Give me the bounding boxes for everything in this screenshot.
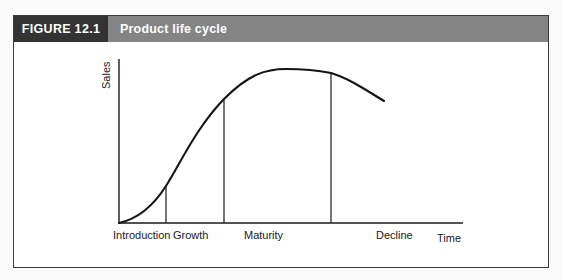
figure-container: FIGURE 12.1 Product life cycle Sales Tim… (13, 15, 549, 268)
figure-title-block: Product life cycle (108, 16, 548, 42)
y-axis-label: Sales (100, 61, 112, 89)
product-life-cycle-curve (119, 69, 384, 223)
figure-header: FIGURE 12.1 Product life cycle (14, 16, 548, 42)
figure-title-label: Product life cycle (120, 22, 227, 36)
stage-label-growth: Growth (173, 229, 208, 241)
stage-label-maturity: Maturity (244, 229, 284, 241)
stage-label-decline: Decline (376, 229, 413, 241)
figure-number-label: FIGURE 12.1 (22, 22, 100, 36)
x-axis-label: Time (437, 232, 461, 244)
figure-number-block: FIGURE 12.1 (14, 16, 108, 42)
stage-label-introduction: Introduction (113, 229, 170, 241)
product-life-cycle-chart: Sales Time Introduction Growth Maturity … (14, 42, 547, 267)
chart-plot-area: Sales Time Introduction Growth Maturity … (14, 42, 548, 267)
